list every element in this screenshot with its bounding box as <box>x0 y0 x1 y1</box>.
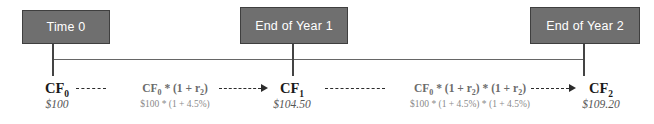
milestone-box-time-0: Time 0 <box>22 10 110 44</box>
dashed-arrow-to-cashflow-2 <box>531 88 569 89</box>
cashflow-label-2: CF2 <box>589 80 613 99</box>
milestone-label: End of Year 1 <box>255 19 333 33</box>
timeline-axis <box>52 59 584 60</box>
milestone-box-end-of-year-1: End of Year 1 <box>240 7 348 44</box>
timeline-tick-time-0 <box>52 44 54 76</box>
compounding-formula-2-numeric: $100 * (1 + 4.5%) * (1 + 4.5%) <box>410 99 530 109</box>
dashed-arrow-to-cashflow-1 <box>219 88 261 89</box>
cashflow-amount-2: $109.20 <box>582 98 619 110</box>
arrowhead-icon <box>569 84 576 92</box>
cashflow-amount-1: $104.50 <box>273 98 310 110</box>
compounding-formula-2: CF0 * (1 + r2) * (1 + r2) <box>414 82 526 97</box>
cashflow-label-0: CF0 <box>45 80 69 99</box>
milestone-label: End of Year 2 <box>546 19 624 33</box>
cashflow-label-1: CF1 <box>280 80 304 99</box>
dashed-connector-2 <box>325 88 385 89</box>
compounding-formula-1: CF0 * (1 + r2) <box>142 82 208 97</box>
timeline-tick-year-2 <box>583 44 585 76</box>
milestone-box-end-of-year-2: End of Year 2 <box>530 7 640 44</box>
milestone-label: Time 0 <box>47 20 86 34</box>
dashed-connector-1 <box>76 88 106 89</box>
timeline-tick-year-1 <box>292 44 294 76</box>
timeline-diagram: Time 0 End of Year 1 End of Year 2 CF0 $… <box>0 0 654 124</box>
compounding-formula-1-numeric: $100 * (1 + 4.5%) <box>140 99 209 109</box>
arrowhead-icon <box>261 84 268 92</box>
cashflow-amount-0: $100 <box>46 98 69 110</box>
